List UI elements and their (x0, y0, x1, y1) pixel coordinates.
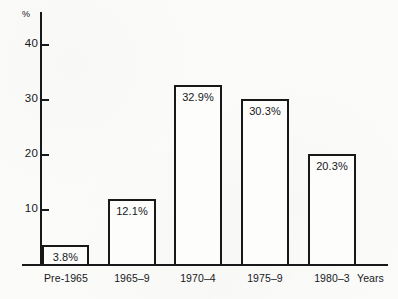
bar-pre-1965[interactable]: 3.8% (42, 245, 89, 266)
y-tick-mark-30 (42, 99, 49, 101)
x-category-label-1980-3: 1980–3 (299, 272, 365, 284)
x-category-label-1965-9: 1965–9 (99, 272, 165, 284)
y-tick-label-30: 30 (10, 92, 38, 104)
bar-1975-9[interactable]: 30.3% (241, 99, 289, 266)
bar-1970-4[interactable]: 32.9% (174, 85, 222, 266)
bar-value-label: 12.1% (110, 205, 154, 217)
y-tick-label-20: 20 (10, 147, 38, 159)
x-category-label-1975-9: 1975–9 (232, 272, 298, 284)
bar-value-label: 32.9% (176, 91, 220, 103)
y-axis-line (40, 12, 42, 265)
bar-value-label: 30.3% (243, 105, 287, 117)
bar-1980-3[interactable]: 20.3% (308, 154, 356, 266)
bar-value-label: 20.3% (310, 160, 354, 172)
y-tick-mark-20 (42, 154, 49, 156)
x-category-label-pre-1965: Pre-1965 (32, 272, 100, 284)
bar-value-label: 3.8% (44, 251, 87, 263)
y-tick-label-40: 40 (10, 37, 38, 49)
bar-chart: % 40 30 20 10 3.8% 12.1% 32.9% 30.3% 20.… (0, 0, 398, 299)
x-axis-title: Years (357, 272, 384, 284)
y-axis-unit-label: % (22, 9, 30, 19)
x-category-label-1970-4: 1970–4 (165, 272, 231, 284)
y-tick-mark-10 (42, 209, 49, 211)
y-tick-mark-40 (42, 44, 49, 46)
y-tick-label-10: 10 (10, 202, 38, 214)
bar-1965-9[interactable]: 12.1% (108, 199, 156, 266)
